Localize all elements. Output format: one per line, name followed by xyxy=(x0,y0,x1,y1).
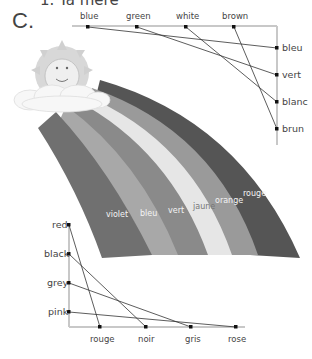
word-rouge: rouge xyxy=(90,334,115,344)
band-label-rouge: rouge xyxy=(243,189,266,198)
dot-rose xyxy=(234,325,238,329)
dot-vert xyxy=(275,73,279,77)
dot-blue xyxy=(86,25,90,29)
word-white: white xyxy=(176,11,199,21)
word-brown: brown xyxy=(222,11,248,21)
dot-brun xyxy=(275,127,279,131)
cloud-icon xyxy=(14,85,110,112)
dot-gris xyxy=(189,325,193,329)
match-line-grey-gris xyxy=(69,283,191,327)
dot-green xyxy=(135,25,139,29)
dot-noir xyxy=(144,325,148,329)
word-rose: rose xyxy=(228,334,246,344)
band-label-vert: vert xyxy=(168,206,184,215)
band-label-orange: orange xyxy=(215,196,243,205)
word-grey: grey xyxy=(47,277,68,288)
word-gris: gris xyxy=(185,334,201,344)
word-brun: brun xyxy=(282,123,304,134)
word-bleu: bleu xyxy=(282,42,303,53)
word-blue: blue xyxy=(80,11,98,21)
word-red: red xyxy=(52,219,68,230)
dot-bleu xyxy=(275,46,279,50)
word-vert: vert xyxy=(282,69,301,80)
illustration-canvas: violet bleu vert jaune orange rouge xyxy=(0,0,312,359)
band-label-jaune: jaune xyxy=(192,202,215,211)
word-black: black xyxy=(44,248,69,259)
match-line-green-vert xyxy=(137,27,277,75)
dot-brown xyxy=(232,25,236,29)
dot-white xyxy=(184,25,188,29)
dot-blanc xyxy=(275,100,279,104)
word-pink: pink xyxy=(48,306,68,317)
band-label-violet: violet xyxy=(106,210,128,219)
match-line-white-blanc xyxy=(186,27,277,102)
dot-rouge xyxy=(98,325,102,329)
match-line-red-rouge xyxy=(69,225,100,327)
word-blanc: blanc xyxy=(282,96,308,107)
match-line-black-noir xyxy=(69,254,146,327)
word-green: green xyxy=(126,11,151,21)
match-line-blue-bleu xyxy=(88,27,277,48)
word-noir: noir xyxy=(138,334,154,344)
match-line-brown-brun xyxy=(234,27,277,129)
match-line-pink-rose xyxy=(69,312,236,327)
band-label-bleu: bleu xyxy=(140,209,157,218)
